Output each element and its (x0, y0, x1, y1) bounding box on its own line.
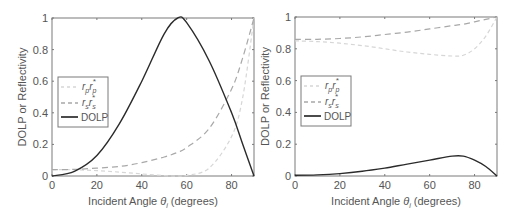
y-tick-label: 0 (285, 170, 291, 182)
y-tick-label: 0 (42, 170, 48, 182)
series-line-rprp (295, 17, 497, 56)
y-tick-label: 0.6 (33, 75, 48, 87)
left-chart: 02040608000.20.40.60.81DOLP or Reflectiv… (0, 0, 259, 217)
x-tick-label: 60 (181, 179, 193, 191)
x-tick-label: 0 (292, 179, 298, 191)
y-tick-label: 1 (42, 12, 48, 24)
y-tick-label: 1 (285, 11, 291, 23)
x-tick-label: 20 (334, 179, 346, 191)
y-tick-label: 0.8 (33, 44, 48, 56)
y-tick-label: 0.2 (276, 138, 291, 150)
x-tick-label: 0 (49, 179, 55, 191)
series-line-rsrs (295, 17, 497, 39)
y-tick-label: 0.2 (33, 138, 48, 150)
y-tick-label: 0.4 (276, 106, 291, 118)
x-tick-label: 20 (91, 179, 103, 191)
y-tick-label: 0.6 (276, 75, 291, 87)
x-tick-label: 60 (424, 179, 436, 191)
x-tick-label: 40 (379, 179, 391, 191)
left-chart-panel: 02040608000.20.40.60.81DOLP or Reflectiv… (0, 0, 259, 217)
x-axis-title: Incident Angle θi (degrees) (88, 195, 218, 209)
y-tick-label: 0.4 (33, 107, 48, 119)
legend-label-dolp: DOLP (324, 111, 352, 122)
legend-label-dolp: DOLP (81, 112, 109, 123)
series-line-dolp (295, 156, 497, 176)
x-tick-label: 40 (136, 179, 148, 191)
legend: rprp*rsrs*DOLP (58, 77, 109, 127)
x-axis-title: Incident Angle θi (degrees) (331, 195, 461, 209)
x-tick-label: 80 (468, 179, 480, 191)
y-tick-label: 0.8 (276, 43, 291, 55)
legend: rprp*rsrs*DOLP (301, 76, 352, 126)
right-chart-panel: 02040608000.20.40.60.81DOLP or Reflectiv… (259, 0, 518, 217)
right-chart: 02040608000.20.40.60.81DOLP or Reflectiv… (259, 0, 519, 217)
y-axis-title: DOLP or Reflectivity (259, 47, 271, 146)
y-axis-title: DOLP or Reflectivity (16, 47, 28, 146)
x-tick-label: 80 (225, 179, 237, 191)
